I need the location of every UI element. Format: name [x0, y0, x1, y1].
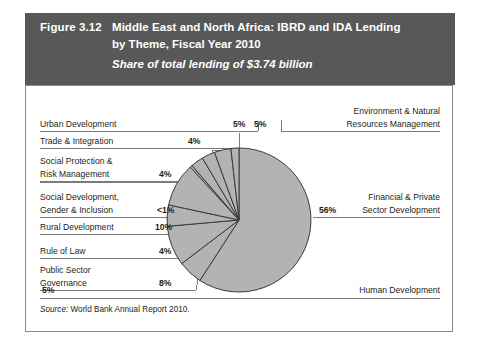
label-rule-of-law: Rule of Law [40, 246, 85, 258]
label-rural-development: Rural Development [40, 222, 114, 234]
value-trade-integration: 4% [188, 136, 200, 146]
label-trade-integration: Trade & Integration [40, 136, 113, 148]
label-social-protection-line2: Risk Management [40, 169, 109, 181]
figure-header: Figure 3.12 Middle East and North Africa… [25, 13, 455, 85]
value-human-development: 5% [42, 285, 54, 295]
value-rural-development: 10% [155, 222, 172, 232]
source-note: Source: World Bank Annual Report 2010. [40, 305, 190, 314]
figure-number: Figure 3.12 [40, 21, 102, 33]
label-financial-line1: Financial & Private [290, 192, 440, 204]
source-label: Source: [40, 305, 68, 314]
label-human-development: Human Development [290, 285, 440, 297]
label-environment-line2: Resources Management [290, 119, 440, 131]
label-urban-development: Urban Development [40, 119, 116, 131]
label-financial-line2: Sector Development [290, 205, 440, 217]
label-social-protection-line1: Social Protection & [40, 156, 113, 168]
chart-frame: Urban Development 5% Trade & Integration… [25, 85, 453, 332]
pie-chart: Urban Development 5% Trade & Integration… [26, 86, 454, 333]
figure-container: Figure 3.12 Middle East and North Africa… [25, 13, 455, 333]
figure-subtitle: Share of total lending of $3.74 billion [112, 58, 313, 70]
label-social-development-line2: Gender & Inclusion [40, 205, 113, 217]
label-public-sector-line1: Public Sector [40, 265, 91, 277]
figure-title-line1: Middle East and North Africa: IBRD and I… [112, 21, 401, 33]
source-text: World Bank Annual Report 2010. [71, 305, 190, 314]
label-environment-line1: Environment & Natural [290, 106, 440, 118]
value-environment-natural-resources: 5% [254, 119, 266, 129]
label-social-development-line1: Social Development, [40, 192, 119, 204]
value-urban-development: 5% [233, 119, 245, 129]
value-rule-of-law: 4% [159, 246, 171, 256]
figure-title-line2: by Theme, Fiscal Year 2010 [112, 38, 261, 50]
value-social-development: <1% [157, 205, 174, 215]
pie-slices [167, 148, 311, 292]
value-social-protection: 4% [159, 169, 171, 179]
value-public-sector: 8% [159, 278, 171, 288]
